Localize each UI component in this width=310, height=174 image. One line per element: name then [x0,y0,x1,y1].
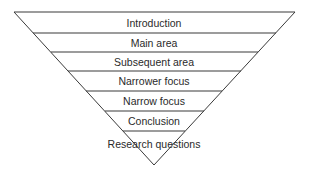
level-label-introduction: Introduction [127,17,182,29]
level-label-subsequent-area: Subsequent area [114,56,194,68]
level-label-conclusion: Conclusion [128,115,180,127]
level-label-narrow-focus: Narrow focus [123,95,185,107]
level-label-research-questions: Research questions [108,138,201,150]
level-label-main-area: Main area [131,37,178,49]
funnel-diagram: Introduction Main area Subsequent area N… [0,0,310,174]
level-label-narrower-focus: Narrower focus [118,75,189,87]
